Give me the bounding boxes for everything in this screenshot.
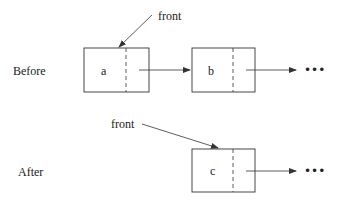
before-front-pointer-arrow [119,15,152,47]
before-node-b: b [192,48,255,92]
linked-list-diagram: Before front a b ••• After front c ••• [0,0,337,207]
ellipsis-icon: ••• [304,63,325,77]
after-front-label: front [111,117,135,131]
after-front-pointer-arrow [142,124,218,148]
ellipsis-icon: ••• [304,164,325,178]
after-label: After [18,165,43,179]
after-node-c: c [192,149,255,192]
node-value: a [101,64,107,78]
node-value: c [210,164,215,178]
before-label: Before [13,64,46,78]
before-front-label: front [158,9,182,23]
node-value: b [208,64,214,78]
